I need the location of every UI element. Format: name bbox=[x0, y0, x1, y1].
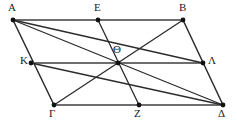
vertex-label-g: Γ bbox=[49, 108, 55, 119]
vertex-label-theta: Θ bbox=[113, 44, 121, 55]
segment-kd bbox=[31, 63, 223, 105]
vertex-label-d: Δ bbox=[218, 108, 225, 119]
vertex-point-l bbox=[201, 61, 206, 66]
vertex-label-l: Λ bbox=[208, 55, 216, 66]
vertex-label-a: Α bbox=[8, 2, 16, 13]
vertex-label-b: Β bbox=[179, 2, 186, 13]
vertex-label-e: Ε bbox=[94, 2, 101, 13]
geometry-canvas bbox=[0, 0, 238, 123]
geometry-figure: ΑΕΒΚΘΛΓΖΔ bbox=[0, 0, 238, 123]
segment-al bbox=[13, 20, 203, 63]
vertex-point-theta bbox=[116, 61, 121, 66]
vertex-label-z: Ζ bbox=[134, 108, 141, 119]
vertex-point-e bbox=[96, 18, 101, 23]
vertex-point-a bbox=[11, 18, 16, 23]
vertex-point-k bbox=[29, 61, 34, 66]
vertex-label-k: Κ bbox=[20, 55, 28, 66]
vertex-point-b bbox=[181, 18, 186, 23]
